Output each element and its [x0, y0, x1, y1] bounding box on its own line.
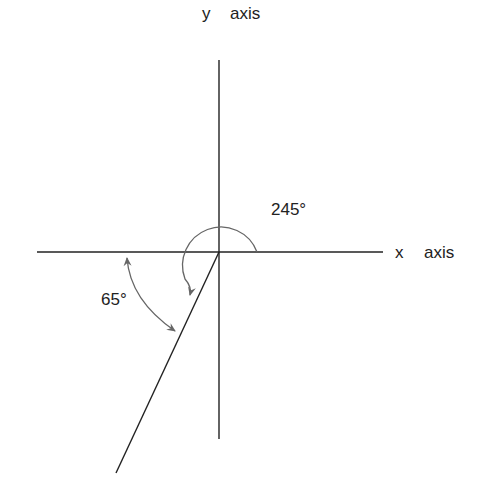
angle-65-label: 65° — [101, 290, 127, 310]
y-axis-variable-label: y — [202, 4, 211, 24]
terminal-ray — [116, 252, 219, 473]
angle-diagram — [0, 0, 481, 483]
x-axis-word-label: axis — [424, 243, 454, 263]
y-axis-word-label: axis — [230, 4, 260, 24]
arc-245-arrow — [183, 227, 257, 295]
x-axis-variable-label: x — [395, 243, 404, 263]
arc-65-arrow — [127, 258, 175, 331]
angle-245-label: 245° — [271, 200, 306, 220]
